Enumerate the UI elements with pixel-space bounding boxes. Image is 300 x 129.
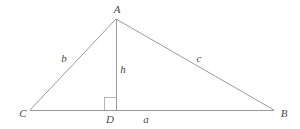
vertex-label-b: B xyxy=(281,108,288,119)
segment-side-c xyxy=(116,19,274,110)
vertex-label-c: C xyxy=(19,108,26,119)
right-angle-marker-icon xyxy=(104,97,116,110)
triangle-diagram: A B C D b h c a xyxy=(0,0,300,129)
segment-side-b xyxy=(30,19,116,110)
side-label-h: h xyxy=(120,64,126,75)
triangle-svg xyxy=(0,0,300,129)
side-label-c: c xyxy=(197,53,202,64)
vertex-label-a: A xyxy=(114,4,121,15)
side-label-b: b xyxy=(61,53,67,64)
side-label-a: a xyxy=(143,114,149,125)
vertex-label-d: D xyxy=(106,114,114,125)
